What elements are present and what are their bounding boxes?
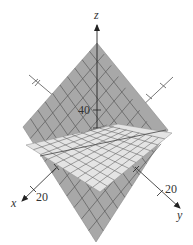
- y-tick-label: 20: [165, 182, 177, 196]
- x-tick-label: 20: [36, 190, 48, 204]
- x-axis-label: x: [10, 196, 17, 210]
- back-axis-left: [29, 75, 55, 97]
- y-axis-label: y: [176, 208, 183, 222]
- z-axis-label: z: [93, 8, 99, 22]
- 3d-plane-figure: z 40 x 20 y 20: [0, 0, 193, 245]
- z-tick-label: 40: [78, 103, 90, 117]
